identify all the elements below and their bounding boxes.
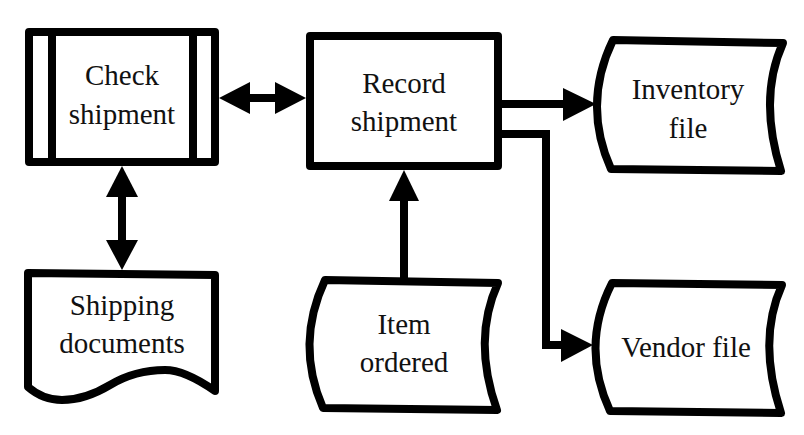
record-shipment-label-line2: shipment [351, 105, 457, 137]
node-vendor-file[interactable]: Vendor file [595, 283, 782, 413]
arrowhead-up-icon [106, 166, 138, 197]
item-ordered-label-line2: ordered [360, 346, 449, 378]
arrowhead-right-icon [561, 329, 593, 362]
item-ordered-shape [309, 280, 498, 410]
node-shipping-documents[interactable]: Shipping documents [28, 273, 215, 400]
arrowhead-up-icon [389, 170, 419, 201]
edge-check-record-bidirectional [219, 82, 306, 114]
edge-record-inventory [498, 88, 596, 121]
arrowhead-right-icon [275, 82, 306, 114]
edge-check-documents-bidirectional [106, 166, 138, 270]
shipping-documents-label-line1: Shipping [70, 289, 175, 321]
shipping-documents-label-line2: documents [59, 327, 185, 359]
arrowhead-down-icon [106, 240, 138, 270]
edge-record-vendor [498, 134, 593, 362]
node-inventory-file[interactable]: Inventory file [597, 40, 783, 171]
check-shipment-label-line1: Check [85, 59, 160, 91]
inventory-file-shape [597, 40, 783, 171]
edge-record-vendor-line [498, 134, 568, 345]
arrowhead-left-icon [219, 82, 250, 114]
inventory-file-label-line2: file [669, 112, 708, 144]
inventory-file-label-line1: Inventory [632, 73, 745, 105]
flowchart-diagram: Check shipment Record shipment Inventory… [0, 0, 804, 435]
check-shipment-box [29, 32, 215, 162]
vendor-file-label: Vendor file [621, 331, 751, 363]
arrowhead-right-icon [563, 88, 596, 121]
record-shipment-box [310, 36, 498, 166]
item-ordered-label-line1: Item [377, 308, 431, 340]
check-shipment-label-line2: shipment [69, 98, 175, 130]
edge-item-record [389, 170, 419, 280]
node-record-shipment[interactable]: Record shipment [310, 36, 498, 166]
record-shipment-label-line1: Record [362, 67, 446, 99]
node-item-ordered[interactable]: Item ordered [309, 280, 498, 410]
node-check-shipment[interactable]: Check shipment [29, 32, 215, 162]
